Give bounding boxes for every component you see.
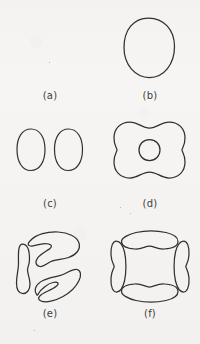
- panel-d: (d): [100, 110, 200, 224]
- panel-e-artwork: [0, 220, 100, 314]
- panel-d-artwork: [100, 110, 200, 204]
- inner-circle-contour: [139, 140, 160, 161]
- panel-f-artwork: [100, 220, 200, 314]
- panel-a: (a): [0, 2, 100, 116]
- lobe-bottom-right-contour: [35, 269, 80, 301]
- lobe-top-right-contour: [28, 232, 79, 267]
- panel-e: (e): [0, 220, 100, 334]
- panel-a-artwork: [0, 2, 100, 96]
- lobe-right-contour: [174, 241, 189, 292]
- panel-c-caption: (c): [0, 198, 100, 209]
- lobe-left-contour: [17, 244, 31, 294]
- panel-c-artwork: [0, 110, 100, 204]
- oval-contour: [124, 18, 175, 78]
- panel-f-caption: (f): [100, 308, 200, 319]
- ellipse-contour-right: [55, 129, 83, 171]
- panel-b: (b): [100, 2, 200, 116]
- pillow-contour: [114, 122, 185, 178]
- ellipse-contour-left: [17, 129, 45, 171]
- panel-d-caption: (d): [100, 198, 200, 209]
- panel-b-caption: (b): [100, 90, 200, 101]
- figure-canvas: (a) (b) (c) (d): [0, 0, 200, 344]
- panel-f: (f): [100, 220, 200, 334]
- panel-c: (c): [0, 110, 100, 224]
- lobe-left-contour: [111, 241, 126, 292]
- lobe-top-contour: [122, 231, 179, 249]
- lobe-bottom-contour: [122, 284, 179, 302]
- panel-b-artwork: [100, 2, 200, 96]
- panel-e-caption: (e): [0, 308, 100, 319]
- panel-a-caption: (a): [0, 90, 100, 101]
